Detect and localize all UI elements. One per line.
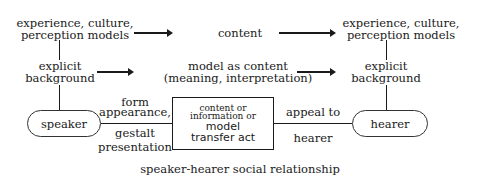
edge-speaker-box bbox=[101, 123, 173, 124]
hearer-node: hearer bbox=[352, 110, 428, 137]
mid-center-line2: (meaning, interpretation) bbox=[152, 72, 324, 84]
box-line4: transfer act bbox=[191, 132, 255, 143]
arrow-mid-left bbox=[97, 71, 132, 73]
left-edge-bottom-line2: presentation bbox=[96, 141, 174, 153]
top-center-label: content bbox=[200, 27, 280, 39]
top-left-label: experience, culture, perception models bbox=[14, 17, 136, 41]
connector-left-bottom bbox=[59, 85, 60, 111]
caption: speaker-hearer social relationship bbox=[100, 163, 380, 175]
transfer-act-box: content or information or model transfer… bbox=[172, 97, 274, 150]
connector-right-top bbox=[386, 40, 387, 60]
mid-left-label: explicit background bbox=[20, 60, 100, 84]
mid-right-label: explicit background bbox=[346, 60, 426, 84]
top-left-line2: perception models bbox=[14, 29, 136, 41]
edge-box-hearer bbox=[274, 123, 352, 124]
left-edge-top-line2: appearance, bbox=[96, 106, 174, 118]
connector-right-bottom bbox=[386, 85, 387, 111]
arrow-top-left bbox=[134, 32, 171, 34]
connector-left-top bbox=[59, 40, 60, 60]
left-edge-top-label: form appearance, bbox=[96, 96, 174, 118]
speaker-node: speaker bbox=[27, 110, 101, 137]
mid-left-line2: background bbox=[20, 72, 100, 84]
top-right-line2: perception models bbox=[340, 29, 462, 41]
right-edge-bottom-label: hearer bbox=[276, 132, 350, 144]
mid-right-line2: background bbox=[346, 72, 426, 84]
top-right-label: experience, culture, perception models bbox=[340, 17, 462, 41]
speaker-label: speaker bbox=[41, 117, 87, 131]
right-edge-top-label: appeal to bbox=[276, 106, 350, 118]
box-line2: information or bbox=[190, 112, 256, 120]
left-edge-bottom-label: gestalt presentation bbox=[96, 127, 174, 153]
arrow-top-right bbox=[279, 32, 334, 34]
arrow-mid-right bbox=[297, 71, 334, 73]
left-edge-bottom-line1: gestalt bbox=[96, 127, 174, 139]
hearer-label: hearer bbox=[371, 117, 410, 131]
